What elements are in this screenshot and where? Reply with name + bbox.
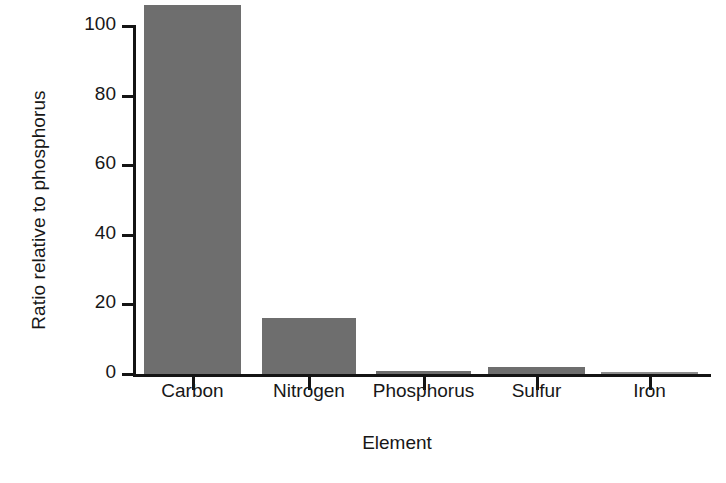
bar-nitrogen xyxy=(262,318,356,374)
bar-phosphorus xyxy=(376,371,471,374)
y-tick-label: 40 xyxy=(95,222,116,244)
x-label-carbon: Carbon xyxy=(161,380,223,402)
x-axis-title-text: Element xyxy=(362,432,432,453)
y-axis-title: Ratio relative to phosphorus xyxy=(28,40,50,380)
x-label-sulfur: Sulfur xyxy=(512,380,562,402)
bar-iron xyxy=(601,372,698,375)
y-tick-mark xyxy=(122,25,133,28)
bar-sulfur xyxy=(488,367,585,374)
x-axis-title: Element xyxy=(0,432,726,454)
y-tick-label: 20 xyxy=(95,291,116,313)
y-tick-label: 0 xyxy=(105,361,116,383)
y-tick-mark xyxy=(122,95,133,98)
y-tick-mark xyxy=(122,164,133,167)
y-tick-label: 100 xyxy=(84,13,116,35)
y-tick-label: 80 xyxy=(95,83,116,105)
x-label-nitrogen: Nitrogen xyxy=(273,380,345,402)
x-label-phosphorus: Phosphorus xyxy=(373,380,474,402)
y-tick-mark xyxy=(122,234,133,237)
bar-chart: Ratio relative to phosphorus 02040608010… xyxy=(0,0,726,483)
y-tick-label: 60 xyxy=(95,152,116,174)
y-axis-line xyxy=(133,25,136,374)
plot-area: 020406080100 xyxy=(133,18,713,374)
bar-carbon xyxy=(144,5,241,374)
y-tick-mark xyxy=(122,373,133,376)
y-tick-mark xyxy=(122,303,133,306)
x-label-iron: Iron xyxy=(633,380,666,402)
